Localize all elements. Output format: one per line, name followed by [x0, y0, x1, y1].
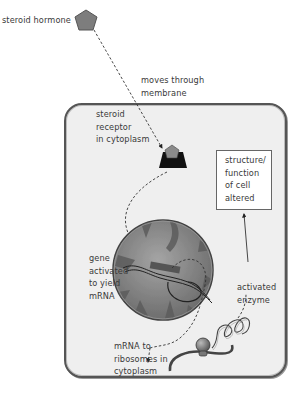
- pentagon-icon: [75, 10, 97, 30]
- receptor-label: steroid receptor in cytoplasm: [96, 108, 150, 146]
- protein-coil: [212, 318, 249, 350]
- gene-label: gene activated to yield mRNA: [89, 252, 128, 302]
- ribosomes-label: mRNA to ribosomes in cytoplasm: [114, 340, 168, 378]
- receptor-icon: [159, 145, 187, 168]
- membrane-label: moves through membrane: [141, 74, 204, 99]
- hormone-label: steroid hormone: [2, 14, 71, 27]
- effect-box: structure/ function of cell altered: [216, 150, 272, 210]
- effect-arrow: [244, 214, 248, 262]
- enzyme-label: activated enzyme: [237, 281, 276, 306]
- effect-label: structure/ function of cell altered: [217, 151, 271, 204]
